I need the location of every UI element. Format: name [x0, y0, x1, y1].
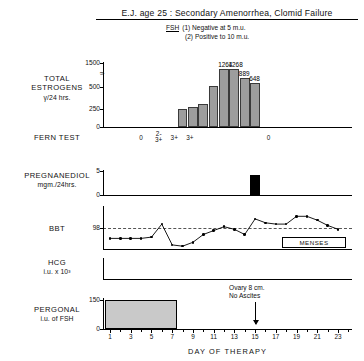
bbt-panel: BBT 98 MENSES [0, 206, 364, 256]
bbt-data-point [192, 241, 195, 244]
bbt-data-point [202, 233, 205, 236]
bbt-data-point [306, 215, 309, 218]
bbt-data-point [285, 223, 288, 226]
estrogens-bar-value: 1268 [228, 61, 242, 68]
x-axis-tick-label: 7 [165, 333, 179, 340]
pregnanediol-tickmark-5 [100, 171, 104, 172]
menses-badge: MENSES [282, 237, 346, 248]
x-axis-tick [265, 329, 266, 332]
estrogens-bar [229, 69, 239, 127]
fsh-note-1: (1) Negative at 5 m.u. [182, 24, 245, 31]
x-axis-tick [203, 329, 204, 332]
x-axis-tick-label: 13 [227, 333, 241, 340]
x-axis-tick-label: 5 [144, 333, 158, 340]
estrogens-bar [219, 69, 229, 127]
bbt-data-point [140, 237, 143, 240]
estrogens-bar [178, 109, 188, 127]
bbt-data-point [316, 219, 319, 222]
bbt-data-point [326, 224, 329, 227]
hcg-label-units: i.u. x 10³ [14, 267, 100, 276]
bbt-data-point [129, 237, 132, 240]
fsh-note-2: (2) Positive to 10 m.u. [185, 33, 249, 40]
x-axis-tick [183, 329, 184, 332]
x-axis-tick [120, 329, 121, 332]
fsh-note-block: FSH(1) Negative at 5 m.u. (2) Positive t… [166, 24, 249, 41]
pergonal-panel: PERGONAL i.u. of FSH Ovary 8 cm. No Asci… [0, 296, 364, 361]
estrogens-bar [188, 107, 198, 127]
x-axis-tick [328, 329, 329, 332]
hcg-label-line1: HCG [14, 258, 100, 267]
ovary-annotation-line1: Ovary 8 cm. [229, 284, 265, 292]
bbt-dot-group [0, 206, 364, 256]
bbt-data-point [150, 236, 153, 239]
fern-test-mark-line: 0 [259, 135, 279, 141]
x-axis-tick-label: 17 [269, 333, 283, 340]
pregnanediol-panel: PREGNANEDIOL mgm./24hrs. 5 0 [0, 168, 364, 206]
x-axis-tick-label: 19 [290, 333, 304, 340]
x-axis-tick [141, 329, 142, 332]
bbt-data-point [119, 237, 122, 240]
fsh-note-row-1: FSH(1) Negative at 5 m.u. [166, 24, 249, 33]
bbt-data-point [212, 229, 215, 232]
bbt-data-point [243, 233, 246, 236]
bbt-data-point [295, 215, 298, 218]
bbt-data-point [171, 244, 174, 247]
pregnanediol-ytick-5: 5 [76, 167, 100, 174]
estrogens-bar [209, 86, 219, 127]
x-axis-tick-label: 9 [186, 333, 200, 340]
x-axis-tick-label: 11 [207, 333, 221, 340]
hcg-label: HCG i.u. x 10³ [14, 258, 100, 277]
bbt-data-point [223, 225, 226, 228]
bbt-data-point [109, 237, 112, 240]
pregnanediol-y-axis [103, 170, 104, 196]
x-axis-ticks: 1357911131517192123 [0, 296, 364, 346]
pregnanediol-tickmark-0 [100, 195, 104, 196]
hcg-y-axis [103, 258, 104, 280]
x-axis-tick [307, 329, 308, 332]
estrogens-bar-value: 648 [249, 75, 260, 82]
estrogens-bar-value: 889 [239, 70, 250, 77]
bbt-data-point [275, 223, 278, 226]
fsh-label: FSH [166, 24, 179, 32]
x-axis-tick [286, 329, 287, 332]
fsh-note-row-2: (2) Positive to 10 m.u. [166, 33, 249, 42]
fern-test-mark: 0 [259, 135, 279, 141]
estrogens-bar-group: 12641268889648 [0, 58, 364, 128]
hcg-baseline [103, 279, 352, 280]
x-axis-tick [162, 329, 163, 332]
estrogens-bar [198, 104, 208, 127]
bbt-data-point [254, 218, 257, 221]
x-axis-tick [224, 329, 225, 332]
bbt-data-point [264, 222, 267, 225]
pregnanediol-ytick-0: 0 [76, 191, 100, 198]
fern-test-row: FERN TEST 02-3+3+3+0 [0, 130, 364, 152]
bbt-data-point [337, 228, 340, 231]
pregnanediol-bar [250, 175, 260, 195]
x-axis-tick [245, 329, 246, 332]
x-axis-tick-label: 21 [310, 333, 324, 340]
fern-test-mark-line: 3+ [180, 135, 200, 141]
bbt-data-point [161, 223, 164, 226]
x-axis-tick-label: 23 [331, 333, 345, 340]
x-axis-title: DAY OF THERAPY [103, 347, 352, 356]
x-axis-tick [348, 329, 349, 332]
chart-page: E.J. age 25 : Secondary Amenorrhea, Clom… [0, 0, 364, 361]
x-axis-tick-label: 3 [124, 333, 138, 340]
pregnanediol-label-units: mgm./24hrs. [14, 180, 100, 189]
estrogens-bar [240, 78, 250, 127]
bbt-data-point [181, 245, 184, 248]
fern-marks-group: 02-3+3+3+0 [0, 130, 364, 152]
hcg-panel: HCG i.u. x 10³ [0, 258, 364, 292]
x-axis-tick-label: 1 [103, 333, 117, 340]
total-estrogens-panel: TOTAL ESTROGENS γ/24 hrs. ≈ 1500 500 250… [0, 58, 364, 136]
bbt-data-point [233, 228, 236, 231]
pregnanediol-baseline [103, 195, 352, 196]
fern-test-mark: 3+ [180, 135, 200, 141]
estrogens-bar [250, 83, 260, 127]
page-title: E.J. age 25 : Secondary Amenorrhea, Clom… [96, 8, 358, 20]
x-axis-tick-label: 15 [248, 333, 262, 340]
